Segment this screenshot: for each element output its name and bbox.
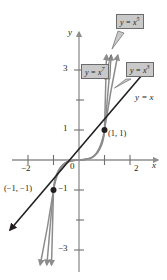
identity-line-label: y = x xyxy=(135,92,154,102)
callout-x5: y = x5 xyxy=(116,14,144,29)
x-tick-label-2: 2 xyxy=(134,163,139,173)
y-tick-label-1: 1 xyxy=(63,123,68,133)
callout-x5-base: y = x xyxy=(120,18,137,27)
y-tick-label-3: 3 xyxy=(63,63,68,73)
callout-x7-exponent: 7 xyxy=(102,66,105,72)
origin-label: 0 xyxy=(70,161,75,171)
point-marker-neg1-neg1 xyxy=(51,187,57,193)
callout-x7-base: y = x xyxy=(85,68,102,77)
graph-figure: y x −2 2 0 3 1 −1 −3 (1, 1) (−1, −1) y =… xyxy=(0,0,167,280)
callout-x3-exponent: 3 xyxy=(147,64,150,70)
callout-x3: y = x3 xyxy=(126,62,154,77)
x-axis-label: x xyxy=(152,160,156,170)
plot-canvas xyxy=(0,0,167,280)
callout-x5-exponent: 5 xyxy=(137,16,140,22)
y-axis-label: y xyxy=(68,27,72,37)
y-tick-label-neg3: −3 xyxy=(58,243,68,253)
x-tick-label-neg2: −2 xyxy=(21,163,31,173)
point-label-1-1: (1, 1) xyxy=(108,128,126,138)
point-marker-1-1 xyxy=(102,127,108,133)
y-tick-label-neg1: −1 xyxy=(58,183,68,193)
callout-tail-x5 xyxy=(112,31,124,49)
callout-tail-x3 xyxy=(115,79,132,88)
point-label-neg1-neg1: (−1, −1) xyxy=(4,183,32,193)
callout-x3-base: y = x xyxy=(130,66,147,75)
callout-x7: y = x7 xyxy=(81,64,109,79)
